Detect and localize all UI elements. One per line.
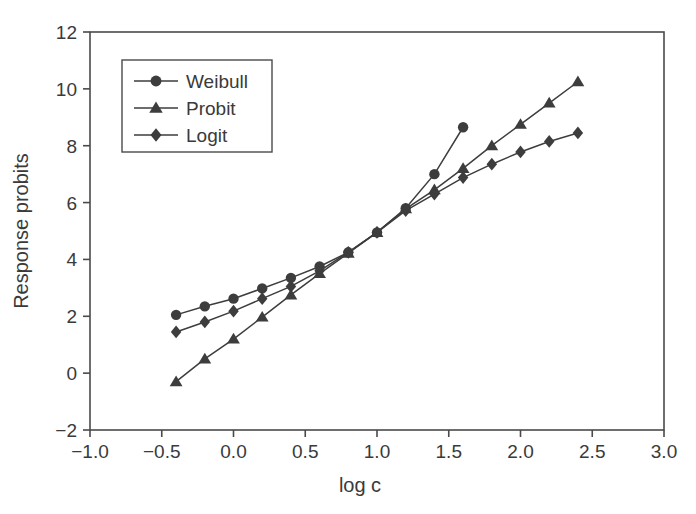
marker-circle <box>200 301 210 311</box>
x-tick-label: 3.0 <box>651 441 677 462</box>
line-chart: −2024681012 −1.0−0.50.00.51.01.52.02.53.… <box>0 0 696 514</box>
y-tick-label: 4 <box>66 249 77 270</box>
legend-label: Probit <box>186 98 236 119</box>
y-tick-label: 8 <box>66 136 77 157</box>
y-tick-label: 2 <box>66 306 77 327</box>
x-axis-title: log c <box>339 474 381 496</box>
x-tick-label: 1.0 <box>364 441 390 462</box>
marker-circle <box>429 169 439 179</box>
x-tick-label: 0.5 <box>292 441 318 462</box>
y-tick-label: 6 <box>66 193 77 214</box>
legend-label: Logit <box>186 125 228 146</box>
marker-circle <box>257 283 267 293</box>
marker-circle <box>228 293 238 303</box>
y-tick-label: 12 <box>56 22 77 43</box>
legend-label: Weibull <box>186 71 248 92</box>
x-tick-label: 1.5 <box>436 441 462 462</box>
marker-circle <box>458 122 468 132</box>
x-tick-label: 0.0 <box>220 441 246 462</box>
marker-circle <box>171 310 181 320</box>
x-tick-label: −0.5 <box>143 441 181 462</box>
y-axis-title: Response probits <box>10 153 32 309</box>
marker-circle <box>151 76 162 87</box>
x-tick-label: 2.0 <box>507 441 533 462</box>
y-tick-label: 0 <box>66 363 77 384</box>
x-axis-tick-labels: −1.0−0.50.00.51.01.52.02.53.0 <box>71 441 677 462</box>
y-tick-label: 10 <box>56 79 77 100</box>
x-tick-label: −1.0 <box>71 441 109 462</box>
y-tick-label: −2 <box>55 420 77 441</box>
x-tick-label: 2.5 <box>579 441 605 462</box>
chart-legend: WeibullProbitLogit <box>122 60 272 152</box>
chart-figure: −2024681012 −1.0−0.50.00.51.01.52.02.53.… <box>0 0 696 514</box>
